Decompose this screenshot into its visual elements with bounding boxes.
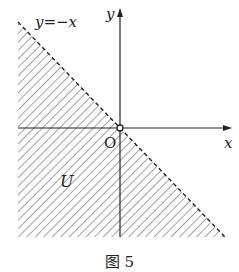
figure-caption: 图 5 — [0, 250, 239, 271]
x-axis-arrow-icon — [223, 125, 232, 131]
y-axis-label: y — [105, 5, 115, 23]
y-axis-arrow-icon — [117, 8, 123, 17]
origin-open-circle-icon — [117, 125, 123, 131]
coordinate-diagram: y=−x y x O U — [0, 0, 239, 272]
x-axis-label: x — [224, 134, 233, 152]
line-label: y=−x — [34, 13, 78, 31]
origin-label: O — [104, 134, 116, 152]
region-label: U — [60, 172, 74, 191]
